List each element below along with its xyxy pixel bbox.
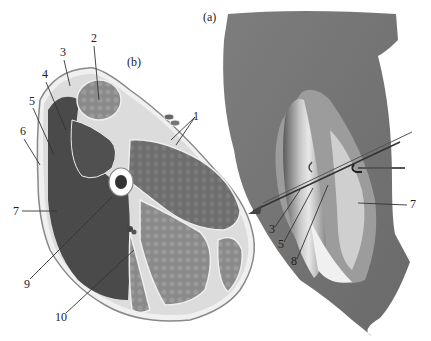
panel-a-illustration [223,11,412,336]
label-b-6: 6 [20,125,26,137]
label-b-2: 2 [91,32,97,44]
anatomy-figure: (a) (b) 1 2 3 4 5 6 7 9 10 3 5 8 7 [0,0,431,341]
label-a-7: 7 [410,198,416,210]
label-b-4: 4 [42,68,48,80]
label-a-3: 3 [269,223,275,235]
label-b-3: 3 [60,46,66,58]
label-b-10: 10 [55,311,67,323]
label-b-5: 5 [29,95,35,107]
label-b-9: 9 [24,278,30,290]
label-b-7: 7 [13,205,19,217]
panel-a-label: (a) [203,11,216,23]
panel-b-cross-section [37,68,254,321]
panel-b-label: (b) [127,56,141,68]
label-a-5: 5 [278,238,284,250]
label-b-1: 1 [193,110,199,122]
label-a-8: 8 [291,255,297,267]
